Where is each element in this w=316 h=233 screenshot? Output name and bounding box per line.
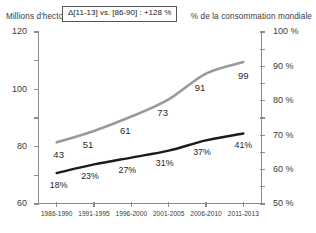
x-axis-label: 2006-2010: [190, 210, 222, 217]
right-tick-label: 60 %: [273, 164, 294, 174]
right-tick-label: 90 %: [273, 61, 294, 71]
volume-data-label: 61: [120, 124, 131, 135]
right-axis-caption: % de la consommation mondiale: [191, 12, 312, 21]
x-axis-label: 1986-1990: [41, 210, 73, 217]
series-lines: [38, 32, 262, 204]
left-tick-label: 120: [12, 26, 27, 36]
share-data-label: 23%: [81, 171, 99, 181]
volume-data-label: 99: [238, 70, 249, 81]
x-axis-label: 2011-2013: [228, 210, 259, 217]
right-tick-label: 70 %: [273, 130, 294, 140]
share-data-label: 18%: [50, 180, 68, 190]
left-tick-label: 60: [17, 198, 27, 208]
right-tick-label: 80 %: [273, 95, 294, 105]
left-tick-label: 80: [17, 141, 27, 151]
x-axis-label: 2001-2005: [153, 210, 185, 217]
right-tick-label: 100 %: [273, 26, 299, 36]
volume-data-label: 91: [195, 81, 206, 92]
x-axis-label: 1996-2000: [116, 210, 148, 217]
chart-container: Millions d'hectolitres % de la consommat…: [0, 0, 316, 233]
x-axis-label: 1991-1995: [78, 210, 110, 217]
volume-data-label: 43: [53, 149, 64, 160]
delta-annotation: Δ[11-13] vs. [86-90] : +128 %: [62, 6, 177, 22]
volume-data-label: 51: [83, 138, 94, 149]
share-data-label: 27%: [119, 165, 137, 175]
volume-data-label: 73: [157, 107, 168, 118]
volume-line: [57, 62, 244, 142]
share-data-label: 41%: [235, 140, 253, 150]
share-data-label: 31%: [156, 158, 174, 168]
left-tick-label: 100: [12, 84, 27, 94]
share-data-label: 37%: [193, 147, 211, 157]
plot-area: 020406080100120 0 %10 %20 %30 %40 %50 %6…: [38, 32, 262, 204]
right-tick-label: 50 %: [273, 198, 294, 208]
